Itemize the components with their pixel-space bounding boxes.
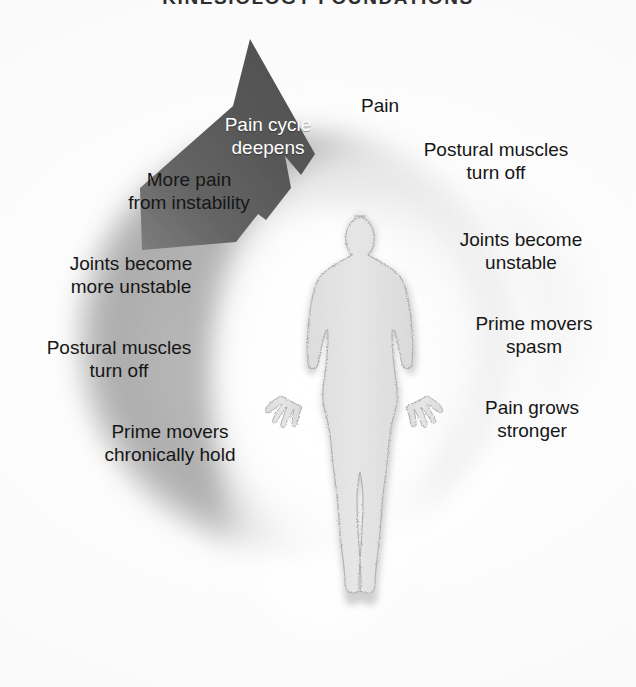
arrow-label: Pain cycle deepens	[188, 113, 348, 159]
cycle-label-prime-movers-chronically-hold: Prime movers chronically hold	[60, 420, 280, 466]
pain-cycle-deepens-arrow	[140, 36, 390, 256]
page-title: KINESIOLOGY FOUNDATIONS	[0, 0, 636, 9]
cycle-label-joints-become-more-unstable: Joints become more unstable	[26, 252, 236, 298]
cycle-label-prime-movers-spasm: Prime movers spasm	[444, 312, 624, 358]
cycle-label-pain-grows-stronger: Pain grows stronger	[442, 396, 622, 442]
cycle-label-pain: Pain	[320, 94, 440, 117]
pain-cycle-diagram: KINESIOLOGY FOUNDATIONS	[0, 0, 636, 687]
cycle-label-postural-muscles-turn-off-left: Postural muscles turn off	[14, 336, 224, 382]
cycle-label-more-pain-from-instability: More pain from instability	[84, 168, 294, 214]
cycle-label-postural-muscles-turn-off-right: Postural muscles turn off	[396, 138, 596, 184]
cycle-label-joints-become-unstable-right: Joints become unstable	[426, 228, 616, 274]
human-body-silhouette	[254, 210, 454, 650]
